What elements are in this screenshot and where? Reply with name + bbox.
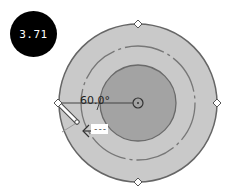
angle-tooltip: --- <box>91 124 108 134</box>
rotation-dial[interactable] <box>0 0 230 196</box>
angle-label: 60.0° <box>80 94 110 107</box>
